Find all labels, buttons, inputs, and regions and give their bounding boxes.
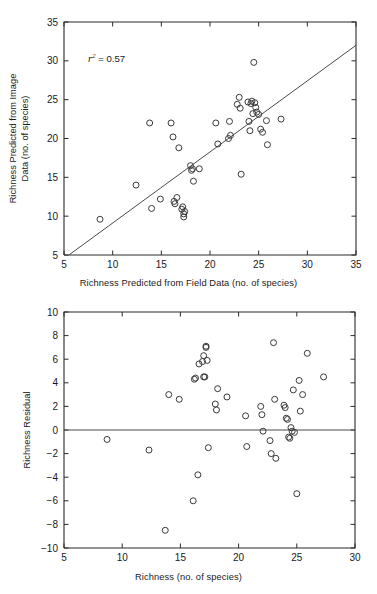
y-tick-label: 10 bbox=[47, 211, 59, 222]
data-point bbox=[190, 178, 196, 184]
data-point bbox=[195, 472, 201, 478]
x-tick-label: 30 bbox=[302, 259, 314, 270]
data-point bbox=[147, 120, 153, 126]
data-point bbox=[243, 413, 249, 419]
x-tick-label: 5 bbox=[61, 259, 67, 270]
y-axis-label-line: Data (no. of species) bbox=[20, 22, 32, 255]
data-point bbox=[236, 94, 242, 100]
y-tick-label: 10 bbox=[47, 307, 59, 318]
y-axis-label-bottom: Richness Residual bbox=[22, 312, 34, 548]
y-tick-label: 4 bbox=[52, 377, 58, 388]
data-point bbox=[166, 392, 172, 398]
data-point bbox=[294, 491, 300, 497]
r-squared-value: 0.57 bbox=[107, 53, 126, 64]
scatter-plot-top: 51015202530355101520253035 bbox=[0, 0, 377, 300]
x-tick-label: 20 bbox=[233, 552, 245, 563]
data-point bbox=[196, 166, 202, 172]
data-point bbox=[215, 386, 221, 392]
data-point bbox=[278, 116, 284, 122]
data-point bbox=[258, 403, 264, 409]
data-point bbox=[157, 196, 163, 202]
data-point bbox=[297, 408, 303, 414]
x-tick-label: 5 bbox=[61, 552, 67, 563]
y-axis-label-line: Richness Predicted from Image bbox=[8, 22, 20, 255]
residual-panel: 51015202530−10−8−6−4−20246810 Richness R… bbox=[0, 300, 377, 594]
y-tick-label: 0 bbox=[52, 425, 58, 436]
data-point bbox=[238, 171, 244, 177]
x-tick-label: 20 bbox=[204, 259, 216, 270]
scatter-panel-predicted-vs-field: 51015202530355101520253035 Richness Pred… bbox=[0, 0, 377, 300]
data-point bbox=[190, 498, 196, 504]
data-point bbox=[226, 118, 232, 124]
figure-container: 51015202530355101520253035 Richness Pred… bbox=[0, 0, 377, 594]
r-squared-annotation: r2 = 0.57 bbox=[88, 52, 125, 64]
data-point bbox=[212, 401, 218, 407]
data-point bbox=[146, 447, 152, 453]
y-axis-label-top: Richness Predicted from ImageData (no. o… bbox=[8, 22, 31, 255]
data-point bbox=[162, 527, 168, 533]
y-tick-label: 20 bbox=[47, 133, 59, 144]
data-point bbox=[244, 444, 250, 450]
data-point bbox=[259, 412, 265, 418]
y-tick-label: 6 bbox=[52, 354, 58, 365]
reference-line bbox=[69, 45, 356, 255]
data-point bbox=[205, 445, 211, 451]
data-point bbox=[304, 350, 310, 356]
data-point bbox=[263, 118, 269, 124]
data-point bbox=[149, 205, 155, 211]
data-point bbox=[176, 145, 182, 151]
data-point bbox=[213, 120, 219, 126]
data-point bbox=[250, 111, 256, 117]
data-point bbox=[321, 374, 327, 380]
y-tick-label: −8 bbox=[47, 519, 59, 530]
x-axis-label-bottom: Richness (no. of species) bbox=[0, 572, 377, 582]
data-point bbox=[133, 182, 139, 188]
x-tick-label: 25 bbox=[253, 259, 265, 270]
data-point bbox=[273, 455, 279, 461]
x-tick-label: 10 bbox=[117, 552, 129, 563]
y-tick-label: 2 bbox=[52, 401, 58, 412]
y-tick-label: −6 bbox=[47, 495, 59, 506]
x-tick-label: 25 bbox=[291, 552, 303, 563]
y-tick-label: 15 bbox=[47, 172, 59, 183]
y-axis-label-line: Richness Residual bbox=[22, 312, 34, 548]
x-tick-label: 15 bbox=[156, 259, 168, 270]
y-tick-label: 30 bbox=[47, 55, 59, 66]
data-point bbox=[268, 451, 274, 457]
data-point bbox=[247, 128, 253, 134]
data-point bbox=[290, 387, 296, 393]
data-point bbox=[296, 377, 302, 383]
data-point bbox=[170, 134, 176, 140]
x-axis-label-top: Richness Predicted from Field Data (no. … bbox=[0, 278, 377, 288]
y-tick-label: −10 bbox=[41, 543, 58, 554]
data-point bbox=[176, 396, 182, 402]
x-tick-label: 15 bbox=[175, 552, 187, 563]
data-point bbox=[272, 396, 278, 402]
data-point bbox=[224, 394, 230, 400]
data-point bbox=[300, 392, 306, 398]
data-point bbox=[97, 216, 103, 222]
data-point bbox=[271, 340, 277, 346]
y-tick-label: 8 bbox=[52, 330, 58, 341]
scatter-plot-bottom: 51015202530−10−8−6−4−20246810 bbox=[0, 300, 377, 594]
y-tick-label: 5 bbox=[52, 250, 58, 261]
data-point bbox=[168, 120, 174, 126]
data-point bbox=[264, 142, 270, 148]
data-point bbox=[267, 438, 273, 444]
x-tick-label: 10 bbox=[107, 259, 119, 270]
y-tick-label: 25 bbox=[47, 94, 59, 105]
y-tick-label: 35 bbox=[47, 17, 59, 28]
data-point bbox=[213, 407, 219, 413]
y-tick-label: −2 bbox=[47, 448, 59, 459]
data-point bbox=[104, 436, 110, 442]
data-point bbox=[251, 59, 257, 65]
x-tick-label: 30 bbox=[349, 552, 361, 563]
x-tick-label: 35 bbox=[350, 259, 362, 270]
data-point bbox=[260, 428, 266, 434]
y-tick-label: −4 bbox=[47, 472, 59, 483]
